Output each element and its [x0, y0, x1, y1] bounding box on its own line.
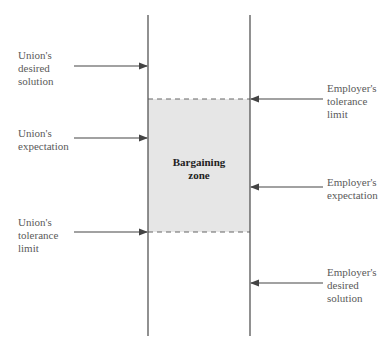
union-desired-solution-label: Union's desired solution: [18, 49, 53, 88]
union-expectation-label: Union's expectation: [18, 127, 69, 153]
employer-expectation-label: Employer's expectation: [327, 176, 378, 202]
bargaining-zone-label: Bargaining zone: [159, 156, 239, 182]
union-tolerance-limit-label: Union's tolerance limit: [18, 216, 58, 255]
employer-tolerance-limit-label: Employer's tolerance limit: [327, 82, 377, 121]
employer-desired-solution-label: Employer's desired solution: [327, 266, 377, 305]
bargaining-zone-diagram: Bargaining zone Union's desired solution…: [0, 0, 390, 350]
